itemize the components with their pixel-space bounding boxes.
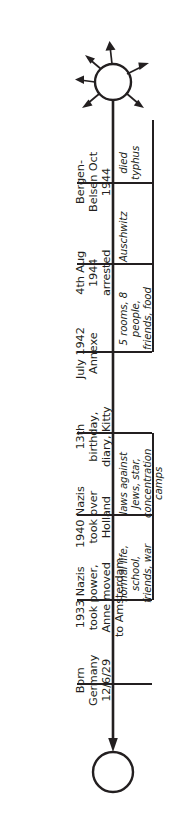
event-label-born: Born Germany 12/6/29 — [74, 655, 113, 706]
event-label-line: took power, — [87, 558, 100, 637]
ray-down-left — [82, 94, 99, 108]
event-label-line: 1944 — [100, 152, 113, 212]
event-label-line: 1944 — [87, 250, 100, 296]
segment-desc-line: camps — [153, 449, 165, 518]
segment-desc-line: Jews, star, — [130, 449, 142, 518]
event-label-line: Bergen- — [74, 152, 87, 212]
event-label-line: 4th Aug — [74, 250, 87, 296]
event-label-1940-nazis: 1940 Nazis took over Holland — [74, 486, 113, 548]
segment-desc-line: died — [118, 146, 130, 180]
axis-arrowhead — [108, 738, 118, 752]
event-label-bergen-belsen: Bergen- Belsen Oct 1944 — [74, 152, 113, 212]
segment-desc-laws-against-jews: laws against Jews, star, concentration c… — [118, 449, 165, 518]
ray-up-left — [85, 55, 101, 69]
event-label-line: Born — [74, 655, 87, 706]
segment-desc-line: people, — [130, 287, 142, 350]
segment-desc-died-typhus: died typhus — [118, 146, 142, 180]
event-label-line: Germany — [87, 655, 100, 706]
event-label-line: Anne moved — [100, 558, 113, 637]
segment-desc-line: school, — [130, 544, 142, 603]
segment-desc-normal-life: normal life, school, friends, war — [118, 544, 153, 603]
event-label-line: 13th — [74, 406, 87, 467]
ray-down-right — [126, 93, 144, 108]
event-label-line: Annexe — [87, 327, 100, 379]
segment-desc-line: laws against — [118, 449, 130, 518]
desc-divider — [152, 120, 154, 183]
ray-up — [106, 41, 116, 64]
event-label-line: arrested — [100, 250, 113, 296]
event-label-line: 12/6/29 — [100, 655, 113, 706]
event-label-line: birthday, — [87, 406, 100, 467]
event-label-line: July 1942 — [74, 327, 87, 379]
desc-divider — [152, 515, 154, 600]
event-label-line: 1940 Nazis — [74, 486, 87, 548]
desc-divider — [152, 183, 154, 264]
desc-divider — [152, 264, 154, 352]
segment-desc-line: normal life, — [118, 544, 130, 603]
event-label-13th-birthday: 13th birthday, diary, Kitty — [74, 406, 113, 467]
ray-up-right — [127, 63, 149, 75]
segment-desc-annexe-rooms: 5 rooms, 8 people, friends, food — [118, 287, 153, 350]
desc-divider — [152, 433, 154, 515]
birth-node-circle — [93, 752, 133, 792]
segment-desc-line: Auschwitz — [118, 212, 130, 262]
event-label-line: Holland — [100, 486, 113, 548]
event-label-line: Belsen Oct — [87, 152, 100, 212]
event-label-line: 1933 Nazis — [74, 558, 87, 637]
ray-left — [75, 76, 95, 85]
event-label-4th-aug-1944: 4th Aug 1944 arrested — [74, 250, 113, 296]
segment-desc-line: 5 rooms, 8 — [118, 287, 130, 350]
segment-desc-line: typhus — [130, 146, 142, 180]
death-node — [75, 41, 149, 108]
event-label-line: diary, Kitty — [100, 406, 113, 467]
event-label-line: took over — [87, 486, 100, 548]
event-label-july-1942-annexe: July 1942 Annexe — [74, 327, 100, 379]
segment-desc-auschwitz: Auschwitz — [118, 212, 130, 262]
